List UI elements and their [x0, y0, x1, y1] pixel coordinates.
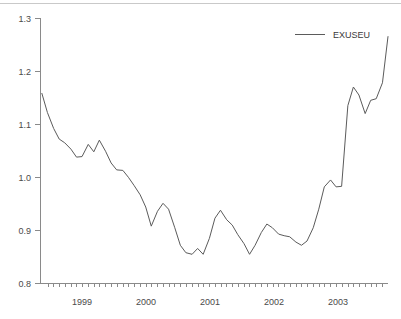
x-tick-label-2002: 2002: [264, 297, 284, 307]
y-tick-label-5: 1.3: [18, 14, 31, 24]
x-axis-tick-labels: 1999 2000 2001 2002 2003: [72, 297, 348, 307]
y-tick-label-2: 1.0: [18, 173, 31, 183]
y-tick-label-4: 1.2: [18, 67, 31, 77]
chart-legend: EXUSEU: [295, 30, 370, 40]
figure-canvas: 0.8 0.9 1.0 1.1 1.2 1.3 1999 2000 2001 2…: [0, 0, 401, 319]
y-axis-ticks: [35, 19, 41, 284]
legend-label-exuseu: EXUSEU: [333, 30, 370, 40]
y-tick-label-1: 0.9: [18, 226, 31, 236]
x-tick-label-2000: 2000: [136, 297, 156, 307]
x-tick-label-1999: 1999: [72, 297, 92, 307]
line-chart-svg: 0.8 0.9 1.0 1.1 1.2 1.3 1999 2000 2001 2…: [0, 0, 401, 319]
x-axis-ticks: [48, 284, 383, 288]
y-tick-label-0: 0.8: [18, 279, 31, 289]
chart-plot-area: 0.8 0.9 1.0 1.1 1.2 1.3 1999 2000 2001 2…: [0, 0, 401, 319]
x-tick-label-2001: 2001: [200, 297, 220, 307]
x-tick-label-2003: 2003: [328, 297, 348, 307]
y-axis-tick-labels: 0.8 0.9 1.0 1.1 1.2 1.3: [18, 14, 31, 289]
y-tick-label-3: 1.1: [18, 120, 31, 130]
series-line-exuseu: [42, 37, 388, 255]
